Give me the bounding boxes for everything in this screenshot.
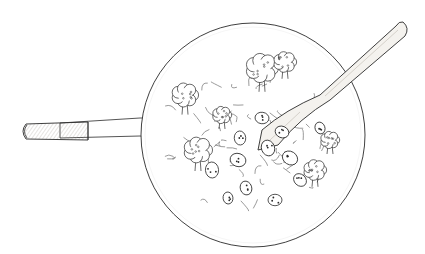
handle-grip bbox=[23, 122, 88, 140]
wok-handle bbox=[23, 118, 160, 140]
wok-drawing bbox=[0, 0, 425, 254]
vegetable-slice bbox=[268, 194, 282, 205]
